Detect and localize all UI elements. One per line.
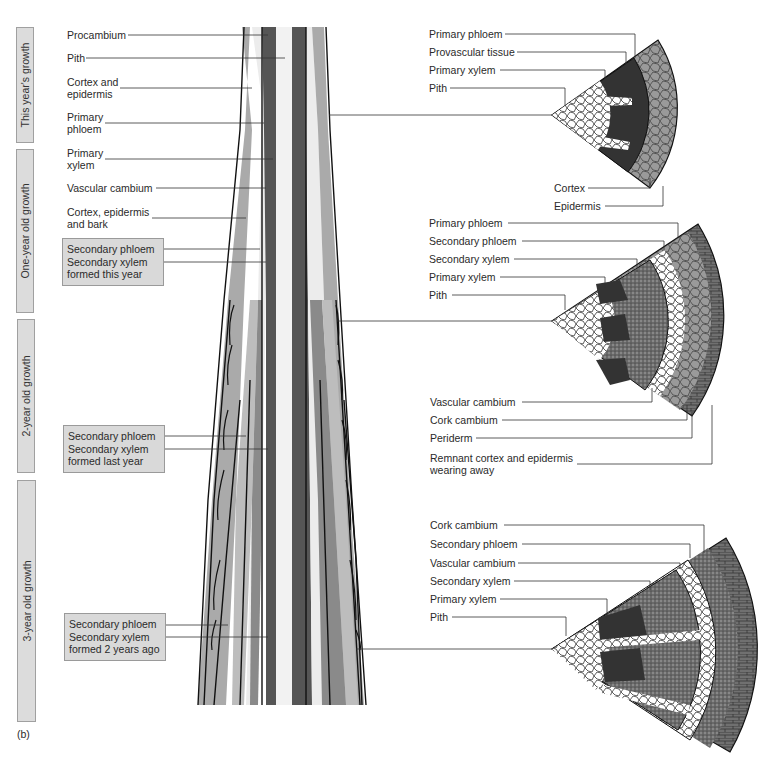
s2-pith: Pith	[429, 289, 447, 301]
cross-section-2	[552, 224, 724, 416]
label-vascular-cambium: Vascular cambium	[67, 182, 153, 194]
box3-line2: Secondary xylem	[69, 631, 150, 643]
label-cortex-epidermis-2: epidermis	[67, 88, 113, 100]
box2-line2: Secondary xylem	[68, 443, 149, 455]
label-primary-phloem-2: phloem	[67, 123, 101, 135]
label-primary-xylem-2: xylem	[67, 159, 94, 171]
cross-section-3	[552, 538, 757, 752]
s2-cork-cambium: Cork cambium	[430, 414, 498, 426]
cross-section-1	[552, 40, 677, 188]
s2-secondary-phloem: Secondary phloem	[429, 235, 517, 247]
s2-periderm: Periderm	[430, 432, 473, 444]
s1-provascular-tissue: Provascular tissue	[429, 46, 515, 58]
box1-line2: Secondary xylem	[67, 256, 148, 268]
label-procambium: Procambium	[67, 29, 126, 41]
s3-pith: Pith	[430, 611, 448, 623]
s1-primary-phloem: Primary phloem	[429, 28, 503, 40]
label-primary-phloem-1: Primary	[67, 111, 103, 123]
label-cortex-epidermis-1: Cortex and	[67, 76, 118, 88]
s2-primary-phloem: Primary phloem	[429, 217, 503, 229]
box1-line1: Secondary phloem	[67, 243, 155, 255]
s2-primary-xylem: Primary xylem	[429, 271, 496, 283]
label-cortex-bark-2: and bark	[67, 218, 108, 230]
s1-primary-xylem: Primary xylem	[429, 64, 496, 76]
box1-line3: formed this year	[67, 268, 142, 280]
s1-cortex: Cortex	[554, 182, 585, 194]
s3-secondary-phloem: Secondary phloem	[430, 538, 518, 550]
s3-cork-cambium: Cork cambium	[430, 519, 498, 531]
s2-remnant-cortex-1: Remnant cortex and epidermis	[430, 452, 573, 464]
label-primary-xylem-1: Primary	[67, 147, 103, 159]
s2-vascular-cambium: Vascular cambium	[430, 396, 516, 408]
s2-secondary-xylem: Secondary xylem	[429, 253, 510, 265]
box3-line3: formed 2 years ago	[69, 643, 159, 655]
s1-pith: Pith	[429, 82, 447, 94]
box2-line3: formed last year	[68, 455, 143, 467]
s3-secondary-xylem: Secondary xylem	[430, 575, 511, 587]
box3-line1: Secondary phloem	[69, 618, 157, 630]
label-cortex-bark-1: Cortex, epidermis	[67, 206, 149, 218]
s2-remnant-cortex-2: wearing away	[430, 464, 494, 476]
s3-primary-xylem: Primary xylem	[430, 593, 497, 605]
box2-line1: Secondary phloem	[68, 430, 156, 442]
label-pith: Pith	[67, 52, 85, 64]
s1-epidermis: Epidermis	[554, 200, 601, 212]
s3-vascular-cambium: Vascular cambium	[430, 557, 516, 569]
